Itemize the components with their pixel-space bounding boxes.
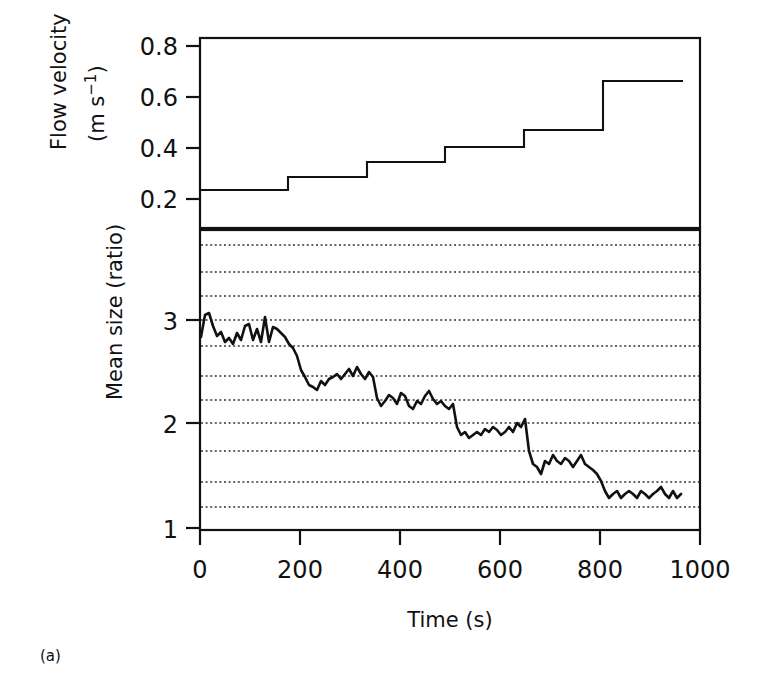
bottom-panel-yticks: [186, 320, 200, 528]
top-ytick-1: 0.6: [140, 84, 178, 112]
top-panel-ylabel: Flow velocity (m s−1): [47, 13, 109, 150]
xtick-600: 600: [477, 556, 523, 584]
x-axis: 0 200 400 600 800 1000 Time (s): [192, 530, 730, 632]
bottom-panel-ytick-labels: 3 2 1: [163, 308, 178, 544]
bottom-ytick-2: 2: [163, 411, 178, 439]
xtick-0: 0: [192, 556, 207, 584]
top-ylabel-unit-post: ): [85, 65, 109, 73]
top-ylabel-unit-sup: −1: [82, 74, 100, 96]
bottom-ylabel: Mean size (ratio): [103, 224, 127, 400]
bottom-ytick-1: 1: [163, 516, 178, 544]
top-ytick-3: 0.2: [140, 186, 178, 214]
mean-size-trace: [201, 313, 681, 498]
top-panel-yticks: [186, 46, 200, 199]
figure-caption: (a): [40, 647, 61, 665]
top-ylabel-line1: Flow velocity: [47, 13, 71, 150]
top-ytick-0: 0.8: [140, 33, 178, 61]
top-panel: 0.8 0.6 0.4 0.2 Flow velocity (m s−1): [47, 13, 700, 228]
figure-panel-a: 0.8 0.6 0.4 0.2 Flow velocity (m s−1): [0, 0, 776, 674]
top-panel-ytick-labels: 0.8 0.6 0.4 0.2: [140, 33, 178, 214]
top-ytick-2: 0.4: [140, 135, 178, 163]
top-ylabel-line2: (m s−1): [82, 65, 109, 142]
xtick-1000: 1000: [669, 556, 730, 584]
bottom-panel-frame: [200, 230, 700, 530]
bottom-panel: 3 2 1 Mean size (ratio): [103, 224, 700, 544]
x-axis-label: Time (s): [406, 608, 492, 632]
bottom-panel-ylabel: Mean size (ratio): [103, 224, 127, 400]
flow-velocity-trace: [201, 81, 683, 190]
xtick-400: 400: [377, 556, 423, 584]
bottom-ytick-3: 3: [163, 308, 178, 336]
top-ylabel-unit-pre: (m s: [85, 96, 109, 142]
x-axis-ticks: [200, 530, 700, 545]
bottom-panel-gridlines: [201, 245, 699, 507]
chart-svg: 0.8 0.6 0.4 0.2 Flow velocity (m s−1): [0, 0, 776, 674]
xtick-200: 200: [277, 556, 323, 584]
top-panel-frame: [200, 38, 700, 228]
x-axis-tick-labels: 0 200 400 600 800 1000: [192, 556, 730, 584]
xtick-800: 800: [577, 556, 623, 584]
